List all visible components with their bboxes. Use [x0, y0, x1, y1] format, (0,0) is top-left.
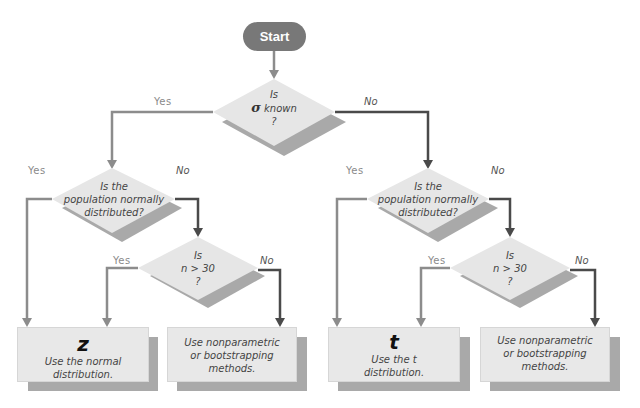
connector-sigma-no	[335, 112, 433, 169]
label-sigma-no: No	[364, 96, 378, 107]
t-symbol: t	[329, 331, 459, 353]
connector-start-to-sigma	[269, 51, 279, 79]
connector-left-normal-no	[175, 199, 203, 237]
outcome-t: t Use the t distribution.	[328, 327, 460, 382]
decision-line: ?	[234, 115, 314, 128]
label-left-n30-no: No	[260, 255, 274, 266]
decision-line: n > 30	[475, 262, 545, 275]
label-left-n30-yes: Yes	[113, 255, 131, 266]
decision-line: population normally	[371, 193, 485, 206]
label-right-n30-no: No	[575, 255, 589, 266]
outcome-line: Use the t	[329, 353, 459, 366]
outcome-line: Use nonparametric	[481, 334, 609, 347]
z-symbol: z	[18, 333, 148, 355]
decision-line: distributed?	[371, 206, 485, 219]
label-left-normal-yes: Yes	[28, 165, 46, 176]
outcome-left-nonparametric: Use nonparametric or bootstrapping metho…	[167, 327, 297, 382]
decision-line: ?	[475, 275, 545, 288]
decision-left-normal-text: Is the population normally distributed?	[57, 180, 171, 219]
label-right-normal-yes: Yes	[346, 165, 364, 176]
decision-line: Is the	[57, 180, 171, 193]
connector-left-n30-no	[258, 270, 285, 327]
connector-left-n30-yes	[102, 268, 138, 327]
outcome-line: distribution.	[18, 368, 148, 381]
label-right-n30-yes: Yes	[428, 255, 446, 266]
decision-line: Is	[475, 249, 545, 262]
decision-line: population normally	[57, 193, 171, 206]
label-right-normal-no: No	[491, 165, 505, 176]
connector-right-n30-yes	[416, 268, 450, 327]
decision-right-n30-text: Is n > 30 ?	[475, 249, 545, 288]
connector-sigma-yes	[107, 112, 213, 169]
decision-line: Is the	[371, 180, 485, 193]
outcome-line: or bootstrapping	[481, 347, 609, 360]
connector-right-normal-yes	[332, 199, 367, 327]
connector-right n30-no	[570, 270, 600, 327]
outcome-line: Use nonparametric	[168, 336, 296, 349]
outcome-line: methods.	[168, 362, 296, 375]
decision-line: ?	[163, 275, 233, 288]
decision-line: n > 30	[163, 262, 233, 275]
connector-left-normal-yes	[22, 199, 52, 327]
start-terminal: Start	[243, 22, 306, 51]
decision-left-n30-text: Is n > 30 ?	[163, 249, 233, 288]
decision-line: Is	[163, 249, 233, 262]
label-left-normal-no: No	[176, 165, 190, 176]
outcome-right-nonparametric: Use nonparametric or bootstrapping metho…	[480, 327, 610, 382]
decision-line: distributed?	[57, 206, 171, 219]
connector-right-normal-no	[489, 199, 515, 237]
decision-sigma-known-text: Is σ known ?	[234, 88, 314, 128]
outcome-line: methods.	[481, 360, 609, 373]
decision-line: Is	[234, 88, 314, 101]
label-sigma-yes: Yes	[154, 96, 172, 107]
sigma-symbol: σ	[251, 100, 261, 115]
outcome-line: Use the normal	[18, 355, 148, 368]
decision-word: known	[264, 103, 297, 114]
outcome-line: or bootstrapping	[168, 349, 296, 362]
outcome-line: distribution.	[329, 366, 459, 379]
outcome-z: z Use the normal distribution.	[17, 327, 149, 382]
decision-right-normal-text: Is the population normally distributed?	[371, 180, 485, 219]
decision-line: σ known	[234, 101, 314, 115]
